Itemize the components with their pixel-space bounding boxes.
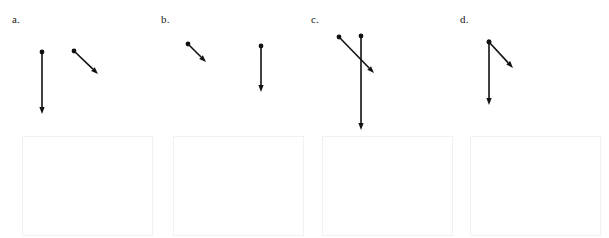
arrow-shaft [188,44,201,57]
arrow-tail-dot-icon [259,44,264,49]
panel-label-d: d. [460,14,469,25]
vector-group-d [486,40,513,105]
arrow-shaft [489,42,508,63]
arrow-tail-dot-icon [359,34,364,39]
answer-box-d[interactable] [470,136,601,236]
panel-label-b: b. [161,14,170,25]
answer-box-c[interactable] [322,136,453,236]
panel-label-a: a. [12,14,20,25]
vector-group-c [337,34,374,130]
arrow-shaft [74,51,93,69]
worksheet-sheet: a.b.c.d. [0,0,609,238]
arrow-head-icon [486,98,491,105]
answer-box-b[interactable] [173,136,304,236]
arrow-tail-dot-icon [40,50,45,55]
arrow-tail-dot-icon [186,42,191,47]
vector-group-a [39,49,98,114]
arrow-tail-dot-icon [487,40,492,45]
answer-box-a[interactable] [22,136,153,236]
arrow-head-icon [258,85,263,92]
arrow-head-icon [358,123,363,130]
arrow-head-icon [39,107,44,114]
vector-group-b [186,42,264,92]
arrow-tail-dot-icon [337,35,342,40]
panel-label-c: c. [311,14,319,25]
arrow-tail-dot-icon [72,49,77,54]
arrow-shaft [339,37,369,68]
